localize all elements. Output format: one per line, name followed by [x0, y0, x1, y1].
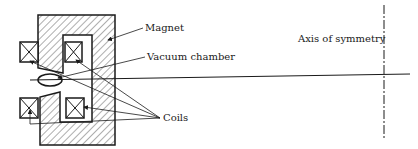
coil-inner-upper — [65, 42, 82, 62]
coils-label: Coils — [163, 112, 188, 123]
coil-left-lower — [20, 98, 38, 118]
coil-left-upper — [20, 42, 38, 62]
vacuum-chamber-label: Vacuum chamber — [146, 51, 235, 62]
magnet-cross-section-diagram: Magnet Vacuum chamber Coils Axis of symm… — [0, 0, 418, 149]
axis-of-symmetry-label: Axis of symmetry — [297, 33, 386, 44]
magnet-label: Magnet — [145, 22, 184, 33]
median-plane-line — [30, 74, 410, 80]
coil-inner-lower — [66, 98, 84, 118]
